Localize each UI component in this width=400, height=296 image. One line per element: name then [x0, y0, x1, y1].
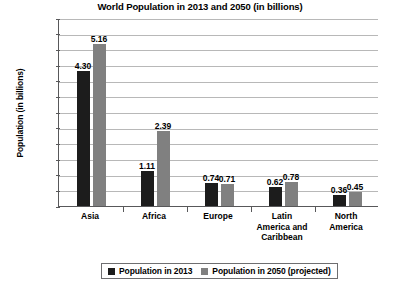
y-axis-tick [56, 113, 60, 114]
plot-area: 4.305.161.112.390.740.710.620.780.360.45 [58, 19, 378, 207]
gridline [59, 19, 378, 20]
category-label-line: Caribbean [250, 232, 314, 243]
legend-swatch-icon [108, 268, 115, 275]
x-axis-category-label: Asia [58, 211, 122, 222]
bar-value-label: 0.78 [279, 172, 304, 182]
category-label-line: America and [250, 222, 314, 233]
bar [205, 183, 218, 206]
x-axis-category-label: LatinAmerica andCaribbean [250, 211, 314, 243]
bar [285, 182, 298, 206]
chart-legend: Population in 2013Population in 2050 (pr… [101, 263, 338, 279]
gridline [59, 160, 378, 161]
category-label-line: Africa [122, 211, 186, 222]
gridline [59, 66, 378, 67]
y-axis-tick [56, 175, 60, 176]
legend-item: Population in 2050 (projected) [201, 266, 330, 276]
category-label-line: Latin [250, 211, 314, 222]
bar [93, 44, 106, 206]
y-axis-tick [56, 144, 60, 145]
y-axis-tick [56, 34, 60, 35]
bar [157, 131, 170, 206]
category-label-line: Asia [58, 211, 122, 222]
bar [349, 192, 362, 206]
gridline [59, 50, 378, 51]
y-axis-tick [56, 160, 60, 161]
y-axis-tick [56, 191, 60, 192]
legend-label: Population in 2013 [119, 266, 192, 276]
gridline [59, 113, 378, 114]
category-label-line: North [314, 211, 378, 222]
bar-value-label: 0.45 [343, 182, 368, 192]
y-axis-tick [56, 19, 60, 20]
y-axis-tick [56, 128, 60, 129]
chart-title: World Population in 2013 and 2050 (in bi… [0, 1, 400, 12]
legend-item: Population in 2013 [108, 266, 192, 276]
legend-label: Population in 2050 (projected) [212, 266, 330, 276]
x-axis-category-label: Africa [122, 211, 186, 222]
gridline [59, 144, 378, 145]
gridline [59, 97, 378, 98]
x-axis-category-label: Europe [186, 211, 250, 222]
y-axis-tick [56, 50, 60, 51]
bar-value-label: 5.16 [87, 34, 112, 44]
y-axis-tick [56, 207, 60, 208]
category-label-line: America [314, 222, 378, 233]
gridline [59, 82, 378, 83]
y-axis-tick [56, 81, 60, 82]
gridline [59, 129, 378, 130]
bar [333, 195, 346, 206]
legend-swatch-icon [201, 268, 208, 275]
bar-value-label: 2.39 [151, 121, 176, 131]
y-axis-label: Population (in billions) [15, 43, 25, 183]
bar [269, 187, 282, 206]
bar [77, 71, 90, 206]
bar-value-label: 0.71 [215, 174, 240, 184]
category-label-line: Europe [186, 211, 250, 222]
bar [221, 184, 234, 206]
bar [141, 171, 154, 206]
y-axis-tick [56, 97, 60, 98]
x-axis-category-label: NorthAmerica [314, 211, 378, 232]
y-axis-tick [56, 66, 60, 67]
bar-chart: World Population in 2013 and 2050 (in bi… [0, 0, 400, 296]
